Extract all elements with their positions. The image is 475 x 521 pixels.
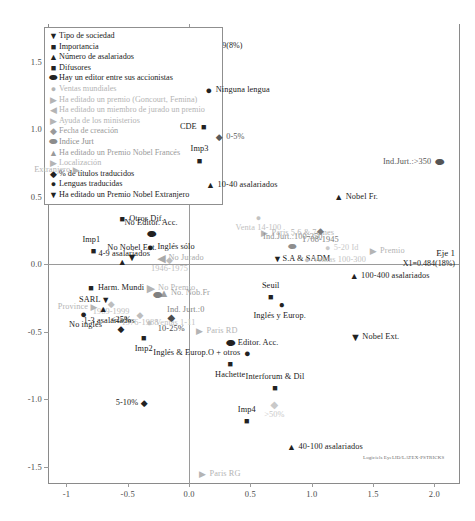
data-point-marker: ▲	[206, 180, 215, 189]
legend-item-label: Indice Jurt	[59, 137, 94, 148]
data-point-label: No inglés	[69, 321, 102, 329]
x-tick-label-6: 2.0	[429, 489, 440, 499]
x-tick-0	[66, 483, 67, 487]
data-point-label: No Jurado	[168, 254, 203, 262]
data-point-label: Imp1	[82, 236, 100, 244]
legend-item-label: Ayuda de los ministerios	[59, 116, 140, 127]
x-tick-label-1: -0.5	[121, 489, 135, 499]
data-point-marker: ⬬	[288, 242, 297, 252]
data-point-marker: ▲	[287, 443, 296, 452]
legend-item-15: ▼Ha editado un Premio Nobel Extranjero	[48, 190, 218, 201]
data-point-label: 5-20 Id	[334, 244, 359, 252]
legend-item-label: Ventas mundiales	[59, 84, 117, 95]
data-point-label: Inglés & Europ.O + otros	[153, 349, 240, 357]
legend-item-label: Tipo de sociedad	[59, 31, 115, 42]
data-point-label: Ventas 1-11	[155, 319, 195, 327]
data-point-marker: ●	[256, 214, 261, 223]
data-point-marker: ⬬	[226, 337, 235, 348]
data-point-marker: ◆	[216, 132, 223, 141]
legend-item-label: Número de asalariados	[59, 52, 134, 63]
data-point-marker: ⬬	[435, 157, 444, 168]
data-point-label: >50%	[264, 411, 284, 419]
data-point-label: Nobel Ext.	[362, 332, 399, 340]
data-point-label: Inglés y Europ.	[253, 312, 305, 320]
data-point-label: No Editor. Acc.	[124, 219, 177, 227]
legend-item-label: Difusores	[59, 63, 91, 74]
data-point-label: Seuil	[262, 282, 280, 290]
x-tick-2	[189, 483, 190, 487]
legend-item-4: ⬬Hay un editor entre sus accionistas	[48, 73, 218, 84]
y-tick-label-1: 1.0	[6, 124, 42, 134]
data-point-marker: ◆	[141, 399, 148, 408]
data-point-label: 4-9 asalariados	[98, 250, 150, 258]
circle-dark-icon: ●	[48, 179, 59, 190]
legend-item-6: ▶Ha editado un premio (Goncourt, Femina)	[48, 95, 218, 106]
x-tick-5	[373, 483, 374, 487]
triangle-right-gray-icon: ▶	[48, 116, 59, 127]
triangle-down-dark-icon: ▼	[48, 31, 59, 42]
data-point-label: Ninguna lengua	[216, 86, 270, 94]
data-point-label: Imp4	[238, 406, 256, 414]
data-point-marker: ■	[268, 292, 273, 301]
data-point-marker: ⬬	[153, 289, 162, 300]
legend-item-3: ■Difusores	[48, 63, 218, 74]
data-point-marker: ■	[141, 333, 146, 342]
correspondence-analysis-biplot: -1-0.50.00.51.01.52.01.51.00.50.0-0.5-1.…	[0, 0, 475, 521]
legend-item-7: ◀Ha editado un miembro de jurado un prem…	[48, 105, 218, 116]
legend-item-1: ■Importancia	[48, 42, 218, 53]
data-point-marker: ●	[244, 347, 251, 358]
data-point-label: Ventas 100-300	[313, 255, 366, 263]
triangle-left-gray-icon: ◀	[48, 105, 59, 116]
x-tick-label-4: 1.0	[306, 489, 317, 499]
data-point-marker: ■	[227, 359, 232, 368]
y-tick-label-4: -0.5	[6, 327, 42, 337]
data-point-label: 1946-1975	[151, 265, 188, 273]
legend-item-5: ●Ventas mundiales	[48, 84, 218, 95]
x-axis-title: Eje 1	[411, 248, 455, 258]
triangle-down-dark2-icon: ▼	[48, 190, 59, 201]
legend-item-0: ▼Tipo de sociedad	[48, 31, 218, 42]
data-point-label: 5-10%	[116, 399, 139, 407]
data-point-marker: ▼	[273, 254, 282, 263]
data-point-marker: ▶	[91, 302, 98, 311]
data-point-marker: ●	[80, 309, 87, 320]
legend-item-label: Hay un editor entre sus accionistas	[59, 73, 173, 84]
data-point-marker: ▶	[196, 327, 203, 336]
data-point-label: Harm. Mundi	[98, 284, 144, 292]
data-point-label: 10-40 asalariados	[218, 180, 278, 188]
x-tick-6	[434, 483, 435, 487]
ellipse-dark-icon: ⬬	[48, 73, 59, 84]
data-point-marker: ▶	[73, 165, 80, 174]
data-point-label: Nobel Fr.	[346, 193, 378, 201]
circle-gray-icon: ●	[48, 84, 59, 95]
triangle-up-gray-icon: ▲	[48, 148, 59, 159]
data-point-label: 40-100 asalariados	[299, 443, 363, 451]
y-tick-label-6: -1.5	[6, 462, 42, 472]
legend-item-label: % de títulos traducidos	[59, 169, 134, 180]
data-point-label: Ind.Jurt.:>350	[383, 158, 431, 166]
y-tick-3	[44, 264, 49, 265]
data-point-label: Extranjero	[34, 166, 70, 174]
data-point-marker: ●	[279, 300, 285, 310]
x-tick-1	[128, 483, 129, 487]
plot-frame-bottom	[48, 483, 460, 484]
square-dark-icon: ■	[48, 42, 59, 53]
y-tick-4	[44, 332, 49, 333]
data-point-marker: ■	[88, 283, 93, 292]
ellipse-gray-icon: ⬬	[48, 137, 59, 148]
data-point-marker: ●	[205, 85, 212, 96]
data-point-marker: ⬬	[147, 228, 156, 239]
y-tick-label-3: 0.0	[6, 259, 42, 269]
data-point-label: No. Nob.Fr	[171, 289, 210, 297]
data-point-marker: ■	[197, 157, 202, 166]
data-point-label: Ind.Jurt.:100-350	[263, 233, 322, 241]
data-point-marker: ▲	[350, 272, 359, 281]
data-point-marker: ●	[325, 244, 330, 253]
data-point-marker: ▲	[99, 304, 108, 313]
data-point-marker: ●	[146, 318, 152, 328]
data-point-label: Paris RD	[207, 327, 238, 335]
legend-item-label: Ha editado un premio (Goncourt, Femina)	[59, 95, 197, 106]
triangle-right-gray-icon: ▶	[48, 95, 59, 106]
y-tick-6	[44, 467, 49, 468]
data-point-label: CDE	[180, 122, 197, 130]
